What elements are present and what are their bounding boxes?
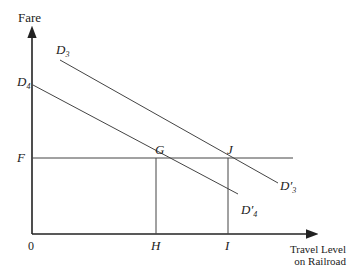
curve-label-d3: D3 (55, 42, 69, 59)
demand-curve-d3 (60, 60, 278, 183)
curve-label-d4: D4 (16, 74, 30, 91)
demand-diagram: Fare D3 D4 F G J D′3 D′4 0 H I Travel Le… (0, 0, 358, 280)
point-i-label: I (224, 238, 230, 253)
curve-label-d3-prime: D′3 (279, 178, 296, 195)
curve-label-d4-prime: D′4 (240, 202, 257, 219)
point-g-label: G (155, 142, 165, 157)
x-axis-label-line1: Travel Level (290, 243, 346, 255)
demand-curve-d4 (33, 85, 238, 194)
y-axis-label: Fare (18, 10, 41, 25)
fare-level-label: F (16, 150, 26, 165)
point-j-label: J (227, 142, 234, 157)
point-h-label: H (150, 238, 161, 253)
x-axis-label-line2: on Railroad (294, 255, 346, 267)
origin-label: 0 (28, 239, 34, 253)
